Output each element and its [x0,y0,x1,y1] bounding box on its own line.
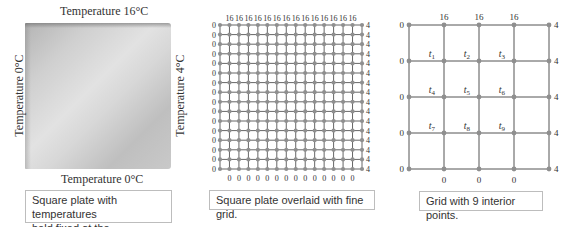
grid-node [303,100,307,104]
grid-node [246,23,250,27]
grid-node [350,90,354,94]
left-boundary-value: 0 [212,136,216,145]
grid-node [341,109,345,113]
top-boundary-value: 16 [440,12,450,22]
grid-node [512,95,517,100]
grid-node [332,71,336,75]
grid-node [350,157,354,161]
grid-node [265,23,269,27]
left-temperature-label: Temperature 0°C [12,50,27,142]
interior-point-label: t4 [429,84,436,97]
grid-node [256,157,260,161]
grid-node [547,23,552,28]
top-boundary-value: 16 [273,14,281,23]
top-temperature-label: Temperature 16°C [60,4,148,19]
grid-node [477,23,482,28]
grid-node [265,148,269,152]
grid-node [341,23,345,27]
grid-node [294,33,298,37]
grid-node [246,138,250,142]
grid-node [360,100,364,104]
top-boundary-value: 16 [235,14,243,23]
grid-node [322,148,326,152]
grid-node [237,42,241,46]
grid-node [303,129,307,133]
top-boundary-value: 16 [349,14,357,23]
grid-node [360,129,364,133]
grid-node [442,167,447,172]
grid-node [360,52,364,56]
left-boundary-value: 0 [212,98,216,107]
grid-node [294,167,298,171]
grid-node [227,23,231,27]
grid-node [294,71,298,75]
caption-plate: Square plate with temperatures held fixe… [25,190,172,223]
grid-node [313,23,317,27]
left-boundary-value: 0 [212,79,216,88]
grid-node [512,23,517,28]
grid-node [477,167,482,172]
grid-node [294,138,298,142]
grid-node [313,109,317,113]
right-boundary-value: 4 [554,128,559,138]
grid-node [294,52,298,56]
grid-node [284,100,288,104]
grid-node [218,23,222,27]
interior-point-label: t2 [464,48,471,61]
grid-node [284,23,288,27]
grid-node [350,148,354,152]
bottom-boundary-value: 0 [256,174,260,183]
grid-node [218,148,222,152]
grid-node [303,52,307,56]
grid-node [218,109,222,113]
bottom-boundary-value: 0 [303,174,307,183]
grid-node [332,138,336,142]
grid-node [275,119,279,123]
top-boundary-value: 16 [475,12,485,22]
grid-node [218,119,222,123]
grid-node [227,100,231,104]
right-boundary-value: 4 [366,117,370,126]
grid-node [256,129,260,133]
grid-node [237,90,241,94]
grid-node [350,100,354,104]
grid-node [227,119,231,123]
grid-node [256,109,260,113]
grid-node [407,95,412,100]
grid-node [322,129,326,133]
grid-node [284,119,288,123]
grid-node [547,131,552,136]
grid-node [294,119,298,123]
top-boundary-value: 16 [282,14,290,23]
grid-node [294,100,298,104]
right-boundary-value: 4 [366,69,370,78]
grid-node [265,157,269,161]
right-boundary-value: 4 [554,20,559,30]
bottom-boundary-value: 0 [332,174,336,183]
grid-node [256,52,260,56]
grid-node [313,138,317,142]
grid-node [218,157,222,161]
grid-node [218,71,222,75]
square-plate [25,23,171,169]
grid-node [227,42,231,46]
grid-node [246,42,250,46]
right-temperature-label: Temperature 4°C [173,50,188,142]
grid-node [477,95,482,100]
grid-node [284,52,288,56]
grid-node [477,59,482,64]
grid-node [313,81,317,85]
grid-node [360,167,364,171]
grid-node [322,167,326,171]
left-boundary-value: 0 [400,92,405,102]
grid-node [227,33,231,37]
grid-node [350,138,354,142]
grid-node [246,33,250,37]
grid-node [218,33,222,37]
grid-node [303,119,307,123]
grid-node [332,157,336,161]
grid-node [313,167,317,171]
grid-node [332,42,336,46]
grid-node [407,59,412,64]
top-boundary-value: 16 [510,12,520,22]
